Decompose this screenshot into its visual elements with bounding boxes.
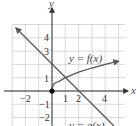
f-curve — [52, 61, 119, 91]
y-axis-label: y — [48, 0, 54, 9]
function-graph: x y −2 1 2 4 4 3 1 −1 −2 y = f(x) y = g(… — [0, 0, 137, 126]
y-tick-label: −2 — [39, 112, 50, 123]
y-tick-label: 3 — [44, 46, 49, 57]
x-axis-label: x — [130, 84, 136, 96]
x-tick-label: 4 — [102, 93, 107, 104]
y-tick-label: 4 — [44, 32, 49, 43]
y-tick-label: 1 — [44, 73, 49, 84]
grid — [12, 24, 125, 126]
origin-point — [49, 88, 54, 93]
y-tick-label: −1 — [39, 99, 50, 110]
g-label: y = g(x) — [68, 119, 105, 126]
x-tick-label: −2 — [20, 93, 31, 104]
x-tick-label: 1 — [63, 93, 68, 104]
x-tick-label: 2 — [76, 93, 81, 104]
f-label: y = f(x) — [68, 52, 102, 65]
